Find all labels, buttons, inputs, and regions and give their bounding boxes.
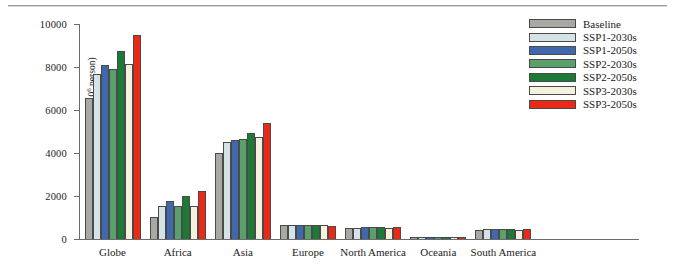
bar-group: North America (341, 24, 406, 239)
bar[interactable] (255, 137, 263, 239)
bar[interactable] (491, 229, 499, 239)
legend-item[interactable]: SSP2-2050s (529, 71, 669, 84)
y-tick-label: 8000 (45, 62, 67, 73)
y-tick-label: 2000 (45, 191, 67, 202)
bar[interactable] (190, 206, 198, 239)
y-tick-label: 6000 (45, 105, 67, 116)
bar-set (341, 24, 406, 239)
bar-group: Oceania (406, 24, 471, 239)
bar[interactable] (117, 51, 125, 239)
bar[interactable] (507, 229, 515, 239)
bar-set (471, 24, 536, 239)
bar-set (145, 24, 210, 239)
bar[interactable] (296, 225, 304, 239)
y-tick-label: 4000 (45, 148, 67, 159)
bar[interactable] (418, 237, 426, 239)
bar[interactable] (475, 230, 483, 239)
legend-label: SSP3-2050s (583, 98, 637, 110)
bar[interactable] (133, 35, 141, 239)
legend-label: SSP1-2050s (583, 44, 637, 56)
legend-swatch (529, 46, 576, 55)
legend-label: SSP3-2030s (583, 85, 637, 97)
bar[interactable] (109, 69, 117, 239)
bar[interactable] (320, 225, 328, 239)
bar[interactable] (377, 227, 385, 239)
bar-group: Asia (210, 24, 275, 239)
bar[interactable] (85, 98, 93, 239)
bar[interactable] (450, 237, 458, 239)
x-axis-category-label: North America (340, 246, 406, 258)
bar[interactable] (247, 133, 255, 239)
x-axis-category-label: South America (471, 246, 537, 258)
bar[interactable] (93, 74, 101, 239)
bar[interactable] (523, 229, 531, 239)
bar-group: South America (471, 24, 536, 239)
x-axis-category-label: Globe (99, 246, 126, 258)
bar[interactable] (369, 227, 377, 239)
legend-swatch (529, 86, 576, 95)
bar[interactable] (458, 237, 466, 239)
bar[interactable] (434, 237, 442, 239)
x-axis-category-label: Africa (164, 246, 192, 258)
legend-swatch (529, 59, 576, 68)
bar-group: Europe (275, 24, 340, 239)
chart-figure: Projections of populations (106 person) … (0, 0, 675, 274)
bar[interactable] (239, 139, 247, 239)
bar[interactable] (158, 206, 166, 239)
x-axis-line (79, 239, 639, 240)
bar[interactable] (410, 237, 418, 239)
legend-item[interactable]: Baseline (529, 17, 669, 30)
bar[interactable] (361, 227, 369, 239)
bar[interactable] (198, 191, 206, 239)
bar-set (80, 24, 145, 239)
bar[interactable] (101, 65, 109, 239)
bar[interactable] (328, 226, 336, 239)
legend-item[interactable]: SSP2-2030s (529, 57, 669, 70)
bar-group: Africa (145, 24, 210, 239)
y-tick-label: 0 (62, 234, 67, 245)
legend-swatch (529, 100, 576, 109)
bar[interactable] (393, 227, 401, 239)
bar-set (406, 24, 471, 239)
bar[interactable] (353, 228, 361, 239)
bar[interactable] (426, 237, 434, 239)
bar[interactable] (304, 225, 312, 239)
legend-item[interactable]: SSP3-2030s (529, 84, 669, 97)
legend-label: SSP2-2030s (583, 58, 637, 70)
x-axis-category-label: Asia (233, 246, 253, 258)
bar-group: Globe (80, 24, 145, 239)
legend-swatch (529, 19, 576, 28)
bar[interactable] (263, 123, 271, 239)
bar-set (210, 24, 275, 239)
bar[interactable] (483, 229, 491, 239)
bar[interactable] (385, 228, 393, 239)
legend-item[interactable]: SSP1-2030s (529, 30, 669, 43)
legend-item[interactable]: SSP3-2050s (529, 97, 669, 110)
bar[interactable] (166, 201, 174, 239)
legend-label: Baseline (583, 18, 621, 30)
bar[interactable] (174, 206, 182, 239)
plot-area: Projections of populations (106 person) … (79, 24, 535, 240)
bar[interactable] (288, 225, 296, 239)
x-axis-category-label: Oceania (420, 246, 456, 258)
x-axis-category-label: Europe (292, 246, 324, 258)
chart-legend: BaselineSSP1-2030sSSP1-2050sSSP2-2030sSS… (529, 17, 669, 111)
top-divider-rule (8, 5, 667, 7)
bar[interactable] (442, 237, 450, 239)
bar[interactable] (125, 64, 133, 239)
bar-set (275, 24, 340, 239)
bar[interactable] (345, 228, 353, 239)
y-tick-0: 0 (74, 239, 80, 240)
legend-label: SSP1-2030s (583, 31, 637, 43)
y-tick-label: 10000 (40, 19, 67, 30)
bar[interactable] (231, 140, 239, 239)
bar[interactable] (312, 225, 320, 239)
bar[interactable] (280, 225, 288, 239)
legend-item[interactable]: SSP1-2050s (529, 44, 669, 57)
bar[interactable] (223, 142, 231, 239)
bar[interactable] (150, 217, 158, 239)
bar[interactable] (515, 230, 523, 239)
bar[interactable] (499, 229, 507, 239)
bar[interactable] (215, 153, 223, 239)
bar[interactable] (182, 196, 190, 239)
